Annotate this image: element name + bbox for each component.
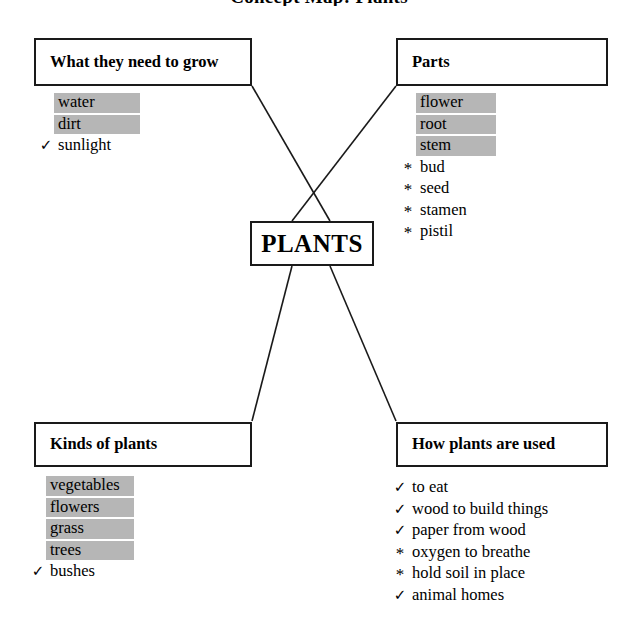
list-item-label: flower (416, 93, 496, 113)
list-item-label: bud (416, 158, 449, 178)
check-icon: ✓ (392, 523, 408, 538)
list-item[interactable]: *pistil (400, 222, 496, 242)
list-item[interactable]: stem (400, 136, 496, 156)
list-item[interactable]: ✓wood to build things (392, 500, 552, 520)
list-item[interactable]: ✓to eat (392, 478, 552, 498)
list-item-label: oxygen to breathe (408, 543, 534, 563)
list-item[interactable]: *hold soil in place (392, 564, 552, 584)
connector-needs-to-center (252, 86, 330, 221)
page-title: Concept Map: Plants (0, 0, 638, 6)
list-item[interactable]: *bud (400, 158, 496, 178)
list-item-label: seed (416, 179, 453, 199)
node-box-uses[interactable]: How plants are used (396, 422, 608, 467)
list-item-label: hold soil in place (408, 564, 529, 584)
list-item[interactable]: vegetables (30, 476, 134, 496)
list-item-label: wood to build things (408, 500, 552, 520)
list-item-label: stamen (416, 201, 471, 221)
star-icon: * (400, 224, 416, 241)
list-item-label: paper from wood (408, 521, 530, 541)
list-item[interactable]: water (38, 93, 140, 113)
node-box-center[interactable]: PLANTS (250, 221, 374, 266)
list-item[interactable]: *oxygen to breathe (392, 543, 552, 563)
list-item-label: water (54, 93, 140, 113)
node-label-needs: What they need to grow (36, 53, 218, 71)
list-item-label: animal homes (408, 586, 508, 606)
item-list-uses: ✓to eat✓wood to build things✓paper from … (392, 478, 552, 607)
item-list-parts: flowerrootstem*bud*seed*stamen*pistil (400, 93, 496, 244)
star-icon: * (400, 160, 416, 177)
node-box-kinds[interactable]: Kinds of plants (34, 422, 252, 467)
star-icon: * (400, 181, 416, 198)
connector-kinds-to-center (252, 266, 292, 421)
star-icon: * (392, 545, 408, 562)
concept-map-page: Concept Map: Plants What they need to gr… (0, 0, 638, 638)
list-item-label: bushes (46, 562, 99, 582)
list-item[interactable]: grass (30, 519, 134, 539)
list-item[interactable]: flowers (30, 498, 134, 518)
list-item-label: trees (46, 541, 134, 561)
check-icon: ✓ (38, 138, 54, 153)
list-item[interactable]: trees (30, 541, 134, 561)
list-item-label: sunlight (54, 136, 115, 156)
node-label-parts: Parts (398, 53, 450, 71)
list-item-label: dirt (54, 115, 140, 135)
list-item[interactable]: *stamen (400, 201, 496, 221)
list-item-label: stem (416, 136, 496, 156)
list-item-label: pistil (416, 222, 457, 242)
list-item[interactable]: ✓paper from wood (392, 521, 552, 541)
check-icon: ✓ (30, 564, 46, 579)
list-item[interactable]: root (400, 115, 496, 135)
check-icon: ✓ (392, 480, 408, 495)
node-box-parts[interactable]: Parts (396, 38, 608, 86)
list-item[interactable]: ✓sunlight (38, 136, 140, 156)
node-label-kinds: Kinds of plants (36, 435, 157, 453)
check-icon: ✓ (392, 502, 408, 517)
list-item[interactable]: dirt (38, 115, 140, 135)
connector-uses-to-center (330, 266, 396, 421)
node-label-uses: How plants are used (398, 435, 555, 453)
list-item[interactable]: ✓animal homes (392, 586, 552, 606)
node-box-needs[interactable]: What they need to grow (34, 38, 252, 86)
list-item[interactable]: flower (400, 93, 496, 113)
list-item-label: flowers (46, 498, 134, 518)
star-icon: * (392, 566, 408, 583)
list-item-label: to eat (408, 478, 452, 498)
list-item[interactable]: ✓bushes (30, 562, 134, 582)
list-item-label: root (416, 115, 496, 135)
list-item-label: grass (46, 519, 134, 539)
center-node-label: PLANTS (261, 230, 363, 258)
connector-parts-to-center (292, 86, 396, 221)
list-item[interactable]: *seed (400, 179, 496, 199)
item-list-kinds: vegetablesflowersgrasstrees✓bushes (30, 476, 134, 584)
check-icon: ✓ (392, 588, 408, 603)
item-list-needs: waterdirt✓sunlight (38, 93, 140, 158)
star-icon: * (400, 203, 416, 220)
list-item-label: vegetables (46, 476, 134, 496)
